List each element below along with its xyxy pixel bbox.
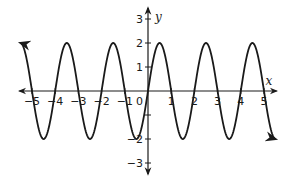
x-tick-label: −4 bbox=[47, 95, 63, 108]
y-tick-label: 1 bbox=[136, 61, 143, 74]
x-tick-label: −1 bbox=[117, 95, 133, 108]
x-tick-label: −2 bbox=[93, 95, 109, 108]
y-tick-label: 3 bbox=[136, 13, 143, 26]
y-axis-label: y bbox=[154, 10, 162, 24]
x-tick-label: −5 bbox=[24, 95, 40, 108]
y-tick-label: −3 bbox=[127, 157, 143, 170]
x-tick-label: −3 bbox=[70, 95, 86, 108]
x-axis-label: x bbox=[266, 74, 273, 88]
y-tick-label: 2 bbox=[136, 37, 143, 50]
sine-graph: −5−4−3−2−1012345 −3−2123 x y bbox=[0, 0, 293, 180]
x-tick-label: 0 bbox=[136, 95, 143, 108]
y-tick-label: −2 bbox=[127, 133, 143, 146]
